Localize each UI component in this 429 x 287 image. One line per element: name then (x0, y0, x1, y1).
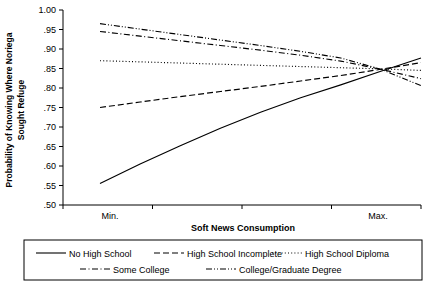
x-axis-title: Soft News Consumption (191, 223, 295, 233)
legend-label-college-graduate-degree: College/Graduate Degree (239, 265, 342, 275)
y-axis-title-line1: Probability of Knowing Where Noriega (4, 32, 14, 187)
y-tick-label: .70 (43, 122, 56, 132)
y-axis-title-line2: Sought Refuge (16, 80, 26, 141)
y-tick-label: .60 (43, 161, 56, 171)
y-tick-label: .55 (43, 181, 56, 191)
chart-figure: Probability of Knowing Where Noriega Sou… (0, 0, 429, 287)
y-tick-label: .90 (43, 44, 56, 54)
legend-label-high-school-incomplete: High School Incomplete (187, 249, 282, 259)
y-tick-label: .65 (43, 142, 56, 152)
y-tick-label: .85 (43, 64, 56, 74)
y-tick-label: .50 (43, 200, 56, 210)
chart-background (0, 0, 429, 287)
x-tick-label-max: Max. (368, 211, 388, 221)
x-tick-label-min: Min. (101, 211, 118, 221)
y-tick-label: 1.00 (38, 5, 56, 15)
y-tick-label: .80 (43, 83, 56, 93)
legend-label-high-school-diploma: High School Diploma (305, 249, 389, 259)
probability-line-chart: Probability of Knowing Where Noriega Sou… (0, 0, 429, 287)
y-tick-label: .75 (43, 103, 56, 113)
legend-label-no-high-school: No High School (69, 249, 132, 259)
legend-label-some-college: Some College (113, 265, 170, 275)
y-tick-label: .95 (43, 25, 56, 35)
